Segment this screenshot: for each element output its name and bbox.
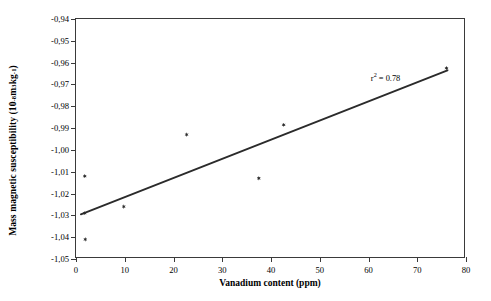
x-axis-tick-label: 50 [315,265,324,275]
x-axis-tick-mark [125,257,126,262]
x-axis-tick-label: 20 [169,265,178,275]
x-axis-title: Vanadium content (ppm) [75,278,465,288]
x-axis-tick-mark [466,257,467,262]
trendline [76,19,464,257]
y-axis-title-exponent-3: -1 [10,68,17,74]
y-axis-title-mid-2: kg [8,74,18,84]
x-axis-tick-mark [174,257,175,262]
x-axis-tick-mark [320,257,321,262]
x-axis-tick-label: 60 [364,265,373,275]
trendline-segment [81,70,448,214]
r-squared-value: = 0.78 [377,74,401,83]
y-axis-tick-label: -1,03 [51,210,69,220]
x-axis-tick-label: 0 [74,265,78,275]
x-axis-tick-label: 40 [267,265,276,275]
x-axis-tick-mark [76,257,77,262]
y-axis-title-mid: m [8,88,18,96]
y-axis-title: Mass magnetic susceptibility (10-8 m3kg-… [0,0,26,301]
x-axis-tick-label: 30 [218,265,227,275]
y-axis-title-exponent-1: -8 [10,96,17,102]
y-axis-title-end: ) [8,65,18,68]
y-axis-tick-label: -1,05 [51,254,69,264]
x-axis-tick-mark [417,257,418,262]
plot-frame: -0,94-0,95-0,96-0,97-0,98-0,99-1,00-1,01… [75,18,465,258]
y-axis-tick-label: -1,02 [51,189,69,199]
y-axis-title-text: Mass magnetic susceptibility (10 [8,101,18,235]
y-axis-tick-label: -0,99 [51,123,69,133]
y-axis-tick-label: -0,95 [51,36,69,46]
x-axis-tick-label: 80 [462,265,471,275]
y-axis-tick-label: -1,00 [51,145,69,155]
y-axis-tick-label: -0,94 [51,14,69,24]
chart-figure: Mass magnetic susceptibility (10-8 m3kg-… [0,0,491,301]
r-squared-annotation: r2 = 0.78 [371,71,400,83]
x-axis-tick-label: 10 [120,265,129,275]
y-axis-title-exponent-2: 3 [10,84,17,87]
x-axis-tick-mark [369,257,370,262]
y-axis-tick-label: -1,01 [51,167,69,177]
y-axis-tick-label: -0,98 [51,101,69,111]
y-axis-tick-label: -0,97 [51,79,69,89]
x-axis-tick-mark [222,257,223,262]
y-axis-tick-label: -1,04 [51,232,69,242]
y-axis-tick-label: -0,96 [51,58,69,68]
x-axis-tick-mark [271,257,272,262]
x-axis-tick-label: 70 [413,265,422,275]
plot-area: -0,94-0,95-0,96-0,97-0,98-0,99-1,00-1,01… [76,19,464,257]
